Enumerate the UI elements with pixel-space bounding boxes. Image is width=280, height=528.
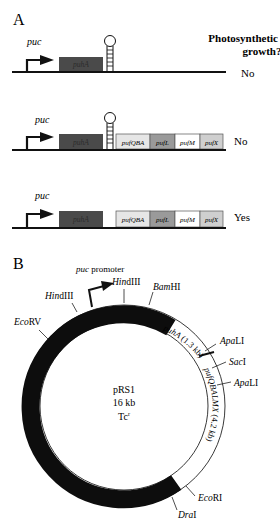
panel-b-label: B (13, 255, 24, 272)
gene-label: pufM (179, 139, 196, 147)
construct-3: puc puhA pufQBA pufL pufM pufX Yes (12, 190, 250, 228)
site-ApaLI-lower: ApaLI (233, 378, 258, 388)
vector-backbone-arc (31, 314, 177, 499)
promoter-arrow-icon (27, 55, 54, 71)
growth-result: No (241, 67, 255, 79)
promoter-label: puc (34, 190, 50, 201)
terminator-hairpin-icon (105, 113, 116, 150)
site-BamHI: BamHI (153, 282, 180, 292)
promoter-label: puc (26, 36, 42, 47)
panel-a-label: A (13, 11, 25, 28)
site-DraI: DraI (177, 510, 196, 520)
promoter-label: puc (34, 114, 50, 125)
site-EcoRI: EcoRI (197, 493, 222, 503)
gene-label: pufQBA (121, 139, 145, 147)
column-header-line1: Photosynthetic (208, 32, 278, 44)
site-SacI: SacI (229, 357, 246, 367)
terminator-hairpin-icon (105, 36, 116, 73)
plasmid-marker: Tcr (118, 411, 130, 422)
gene-label: puhA (72, 60, 89, 69)
site-HindIII-left: HindIII (44, 291, 74, 301)
promoter-arrow-icon (89, 281, 114, 307)
site-EcoRV: EcoRV (13, 317, 41, 327)
gene-label: pufQBA (121, 216, 145, 224)
site-ApaLI-upper: ApaLI (219, 336, 244, 346)
figure-canvas: A Photosynthetic growth? puc puhA No puc (0, 0, 280, 528)
plasmid-size: 16 kb (113, 397, 136, 408)
promoter-arrow-icon (27, 132, 54, 149)
site-HindIII-top: HindIII (111, 277, 141, 287)
column-header-line2: growth? (243, 45, 280, 57)
segment-label-puhA: puhA (1.3 kb) (161, 322, 206, 360)
gene-label: pufL (155, 216, 169, 224)
gene-label: pufX (204, 216, 219, 224)
gene-label: pufX (204, 139, 219, 147)
gene-label: pufL (155, 139, 169, 147)
gene-label: puhA (72, 215, 89, 224)
promoter-arrow-icon (27, 209, 54, 227)
construct-2: puc puhA pufQBA pufL pufM pufX No (12, 113, 248, 151)
plasmid-name: pRS1 (113, 384, 135, 395)
puc-promoter-label: puc promoter (75, 264, 124, 274)
growth-result: Yes (234, 211, 250, 223)
gene-label: pufM (179, 216, 196, 224)
gene-label: puhA (72, 138, 89, 147)
segment-label-puf: pufQBALMX (4.2 kb) (202, 365, 221, 444)
growth-result: No (234, 135, 248, 147)
